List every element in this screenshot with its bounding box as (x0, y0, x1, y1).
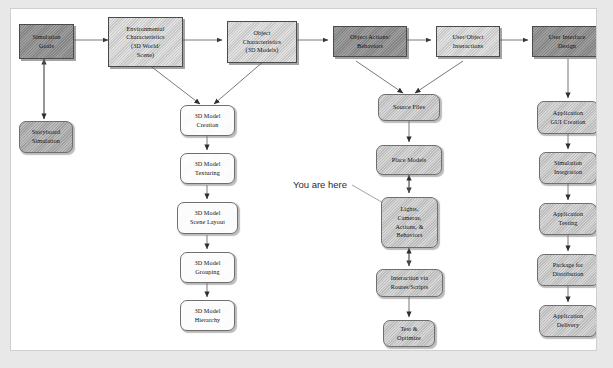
node-label: Source Files (393, 103, 425, 112)
node-simulation-integration[interactable]: Simulation Integration (539, 152, 597, 184)
node-place-models[interactable]: Place Models (376, 145, 442, 175)
node-label: Package for Distribution (552, 261, 583, 278)
node-label: 3D Model Scene Layout (190, 209, 225, 226)
node-label: Application Testing (553, 210, 583, 227)
node-label: Application Delivery (553, 312, 583, 329)
node-object-actions-behaviors[interactable]: Object Actions/ Behaviors (333, 26, 407, 57)
node-label: 3D Model Texturing (194, 160, 220, 177)
node-3d-model-texturing[interactable]: 3D Model Texturing (180, 153, 235, 184)
node-lights-cameras-actions-behaviors[interactable]: Lights, Cameras, Actions, & Behaviors (381, 197, 438, 248)
node-label: Test & Optimize (397, 325, 421, 342)
node-application-delivery[interactable]: Application Delivery (539, 305, 597, 337)
node-interaction-via-routes-scripts[interactable]: Interaction via Routes/Scripts (376, 269, 443, 297)
node-package-for-distribution[interactable]: Package for Distribution (537, 254, 597, 286)
edge-interactions-to-source-files (415, 61, 463, 93)
node-storyboard-simulation[interactable]: Storyboard Simulation (19, 121, 73, 153)
node-label: Place Models (392, 156, 427, 165)
you-are-here-annotation: You are here (293, 179, 347, 190)
node-object-characteristics[interactable]: Object Characteristics (3D Models) (227, 21, 297, 63)
node-label: 3D Model Hierarchy (194, 307, 220, 324)
node-label: Lights, Cameras, Actions, & Behaviors (395, 205, 423, 239)
node-label: Simulation Goals (32, 33, 60, 50)
node-application-gui-creation[interactable]: Application GUI Creation (537, 101, 597, 134)
node-environmental-characteristics[interactable]: Environmental Characteristics (3D World/… (108, 17, 183, 67)
edge-object-to-model-creation (214, 61, 264, 104)
node-application-testing[interactable]: Application Testing (539, 203, 597, 235)
node-simulation-goals[interactable]: Simulation Goals (19, 24, 74, 59)
edge-actions-to-source-files (356, 61, 403, 93)
diagram-canvas: Simulation Goals Environmental Character… (0, 0, 613, 368)
node-label: Object Actions/ Behaviors (350, 33, 390, 50)
node-3d-model-grouping[interactable]: 3D Model Grouping (180, 252, 235, 283)
edge-environment-to-model-creation (144, 61, 200, 104)
node-label: User/Object Interactions (453, 33, 484, 50)
node-user-interface-design[interactable]: User Interface Design (532, 26, 597, 57)
node-3d-model-hierarchy[interactable]: 3D Model Hierarchy (180, 300, 235, 331)
node-label: 3D Model Creation (194, 112, 220, 129)
node-3d-model-scene-layout[interactable]: 3D Model Scene Layout (177, 202, 238, 234)
node-label: User Interface Design (549, 33, 586, 50)
node-label: Interaction via Routes/Scripts (391, 274, 429, 291)
node-label: Storyboard Simulation (32, 128, 61, 145)
node-user-object-interactions[interactable]: User/Object Interactions (436, 26, 500, 57)
node-label: Simulation Integration (554, 159, 582, 176)
node-test-and-optimize[interactable]: Test & Optimize (383, 320, 435, 347)
diagram-panel: Simulation Goals Environmental Character… (10, 8, 597, 351)
node-3d-model-creation[interactable]: 3D Model Creation (180, 105, 235, 136)
node-source-files[interactable]: Source Files (378, 94, 440, 121)
node-label: Environmental Characteristics (3D World/… (126, 25, 164, 59)
node-label: Application GUI Creation (550, 109, 585, 126)
node-label: Object Characteristics (3D Models) (243, 29, 281, 55)
node-label: 3D Model Grouping (194, 259, 220, 276)
